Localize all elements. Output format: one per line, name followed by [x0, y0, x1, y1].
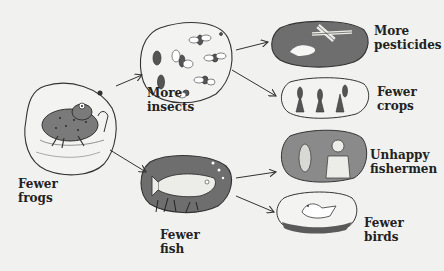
node-label-pesticides: More pesticides: [374, 24, 442, 52]
node-label-fish: Fewer fish: [160, 228, 200, 256]
fish-illustration: [141, 156, 232, 213]
frog-illustration: [25, 83, 116, 175]
crops-illustration: [281, 78, 368, 119]
pesticides-illustration: [272, 21, 368, 67]
food-web-diagram: Fewer frogs More insects Fewer fish More…: [0, 0, 444, 271]
birds-illustration: [277, 192, 357, 234]
node-label-crops: Fewer crops: [377, 85, 417, 113]
fishermen-illustration: [281, 130, 366, 182]
node-label-fishermen: Unhappy fishermen: [370, 148, 437, 176]
node-label-frogs: Fewer frogs: [18, 177, 58, 205]
node-label-insects: More insects: [147, 86, 194, 114]
node-label-birds: Fewer birds: [364, 216, 404, 244]
